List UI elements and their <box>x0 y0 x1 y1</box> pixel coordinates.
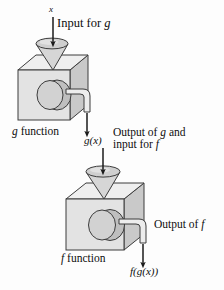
label-output-of-f: Output of f <box>154 218 204 230</box>
machine-diagram-svg <box>0 0 224 290</box>
label-g-function: g function <box>12 125 59 137</box>
label-output-of-g: Output of g and input for f <box>113 126 186 151</box>
label-f-function: f function <box>61 252 105 264</box>
label-output-of-g-line1: Output of g and <box>113 126 186 138</box>
dial-g-face <box>37 81 63 110</box>
label-output-of-g-line2: input for f <box>113 138 186 150</box>
label-f-of-g-of-x: f(g(x)) <box>130 266 158 278</box>
label-g-function-var: g <box>12 125 18 137</box>
machine-f <box>66 166 146 250</box>
label-input-x: x <box>49 5 53 15</box>
figure-canvas: x Input for g g function g(x) Output of … <box>0 0 224 290</box>
label-input-for-g-var: g <box>104 16 110 30</box>
dial-f-face <box>89 210 116 240</box>
label-f-function-var: f <box>61 252 64 264</box>
funnel-f-rim-highlight <box>90 167 110 173</box>
label-g-of-x: g(x) <box>84 135 102 147</box>
funnel-g-rim-highlight <box>40 40 59 45</box>
machine-g <box>18 38 90 120</box>
label-input-for-g: Input for g <box>57 17 110 31</box>
label-output-of-f-var: f <box>201 218 204 230</box>
